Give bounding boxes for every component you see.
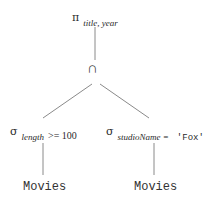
intersection-node: ∩	[87, 61, 98, 76]
projection-attributes: title, year	[83, 18, 118, 28]
sigma-symbol: σ	[106, 125, 114, 138]
edge-intersection-to-left-select	[43, 84, 92, 118]
sigma-symbol: σ	[10, 125, 18, 138]
selection-attribute: studioName =	[118, 132, 169, 142]
left-selection-node: σ length >= 100	[10, 122, 77, 138]
selection-condition: >= 100	[48, 130, 77, 141]
pi-symbol: π	[72, 11, 79, 24]
intersection-symbol: ∩	[87, 59, 98, 77]
right-selection-node: σ studioName = 'Fox'	[106, 122, 204, 138]
selection-literal: 'Fox'	[177, 133, 204, 143]
tree-edges	[0, 0, 214, 201]
expression-tree: π title, year ∩ σ length >= 100 σ studio…	[0, 0, 214, 201]
right-relation-movies: Movies	[134, 181, 177, 193]
edge-intersection-to-right-select	[100, 84, 149, 118]
selection-attribute: length	[22, 132, 45, 142]
projection-node: π title, year	[72, 8, 118, 24]
left-relation-movies: Movies	[23, 181, 66, 193]
